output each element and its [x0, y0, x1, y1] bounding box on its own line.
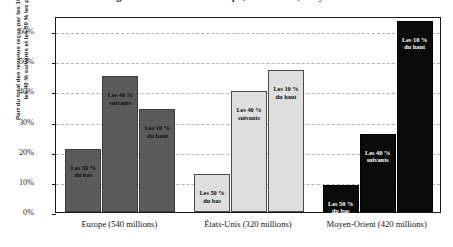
bar-label-line-2: du haut — [269, 93, 303, 100]
y-axis-tick-label: 60% — [0, 27, 34, 36]
y-axis-tick-mark — [52, 124, 56, 125]
bar[interactable]: Les 50 %du bas — [65, 149, 101, 212]
y-axis-tick-mark — [52, 154, 56, 155]
bar-value-label: Les 50 %du bas — [324, 200, 358, 215]
y-axis-tick-label: 30% — [0, 117, 34, 126]
y-axis-tick-mark — [52, 63, 56, 64]
y-axis-tick-label: 20% — [0, 147, 34, 156]
bar-value-label: Les 10 %du haut — [269, 85, 303, 100]
y-axis-tick-mark — [52, 93, 56, 94]
x-axis-category-label: Moyen-Orient (420 millions) — [312, 219, 441, 229]
bar-label-line-1: Les 10 % — [140, 124, 174, 131]
bar-group: Les 50 %du basLes 40 %suivantsLes 10 %du… — [65, 18, 175, 212]
bar[interactable]: Les 50 %du bas — [323, 185, 359, 212]
bar[interactable]: Les 40 %suivants — [102, 76, 138, 212]
bar-label-line-2: suivants — [232, 114, 266, 121]
y-axis-title-line-1: Part du total des revenus reçus par les … — [14, 0, 22, 132]
bar-label-line-1: Les 50 % — [66, 164, 100, 171]
bar-value-label: Les 40 %suivants — [361, 149, 395, 164]
bar-value-label: Les 50 %du bas — [195, 189, 229, 204]
y-axis-tick-label: 0% — [0, 208, 34, 217]
bar-label-line-1: Les 10 % — [269, 85, 303, 92]
bar[interactable]: Les 10 %du haut — [397, 21, 433, 212]
bar-label-line-2: suivants — [361, 156, 395, 163]
bar-value-label: Les 50 %du bas — [66, 164, 100, 179]
x-axis-category-label: États-Unis (320 millions) — [184, 219, 313, 229]
bar-value-label: Les 40 %suivants — [103, 91, 137, 106]
bar[interactable]: Les 10 %du haut — [139, 109, 175, 212]
bar-label-line-2: du haut — [398, 43, 432, 50]
bar-label-line-1: Les 50 % — [195, 189, 229, 196]
chart-title: Les inégalités de revenus : Europe, État… — [0, 0, 453, 5]
y-axis-tick-mark — [52, 33, 56, 34]
bar[interactable]: Les 50 %du bas — [194, 174, 230, 212]
bar-group: Les 50 %du basLes 40 %suivantsLes 10 %du… — [323, 18, 433, 212]
x-axis-category-label: Europe (540 millions) — [55, 219, 184, 229]
bar-value-label: Les 10 %du haut — [140, 124, 174, 139]
y-axis-tick-label: 40% — [0, 87, 34, 96]
y-axis-title-line-2: les 40 % suivants et les 50 % les plus p… — [22, 0, 30, 132]
bar[interactable]: Les 10 %du haut — [268, 70, 304, 212]
y-axis-tick-mark — [52, 184, 56, 185]
plot-area: Les 50 %du basLes 40 %suivantsLes 10 %du… — [55, 17, 441, 213]
bar-label-line-1: Les 40 % — [232, 106, 266, 113]
bar-chart: Les inégalités de revenus : Europe, État… — [0, 0, 453, 247]
bar-label-line-1: Les 10 % — [398, 36, 432, 43]
bar-value-label: Les 40 %suivants — [232, 106, 266, 121]
bar-label-line-2: du haut — [140, 132, 174, 139]
y-axis-tick-label: 10% — [0, 177, 34, 186]
bar-label-line-1: Les 50 % — [324, 200, 358, 207]
bar-group: Les 50 %du basLes 40 %suivantsLes 10 %du… — [194, 18, 304, 212]
bar-label-line-1: Les 40 % — [361, 149, 395, 156]
y-axis-tick-mark — [52, 214, 56, 215]
bar[interactable]: Les 40 %suivants — [231, 91, 267, 212]
bar-label-line-2: suivants — [103, 99, 137, 106]
bar-label-line-2: du bas — [324, 207, 358, 214]
bar[interactable]: Les 40 %suivants — [360, 134, 396, 212]
y-axis-title: Part du total des revenus reçus par les … — [14, 0, 38, 132]
y-axis-tick-label: 50% — [0, 57, 34, 66]
bar-value-label: Les 10 %du haut — [398, 36, 432, 51]
bar-label-line-2: du bas — [66, 171, 100, 178]
bar-label-line-1: Les 40 % — [103, 91, 137, 98]
bar-label-line-2: du bas — [195, 197, 229, 204]
